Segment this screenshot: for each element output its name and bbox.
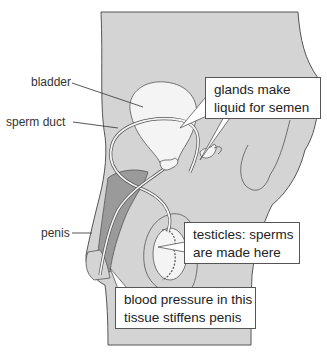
- label-penis: penis: [41, 226, 70, 240]
- diagram-canvas: bladder sperm duct penis glands make liq…: [0, 0, 327, 353]
- callout-tissue: blood pressure in this tissue stiffens p…: [115, 287, 256, 329]
- callout-testicles: testicles: sperms are made here: [184, 222, 300, 264]
- callout-tissue-line1: blood pressure in this: [124, 291, 247, 309]
- callout-glands-line2: liquid for semen: [214, 99, 312, 117]
- callout-testicles-line2: are made here: [193, 244, 291, 262]
- label-bladder: bladder: [31, 75, 71, 89]
- testicle: [153, 228, 187, 280]
- callout-glands-line1: glands make: [214, 81, 312, 99]
- label-sperm-duct: sperm duct: [6, 115, 65, 129]
- callout-testicles-line1: testicles: sperms: [193, 226, 291, 244]
- callout-tissue-line2: tissue stiffens penis: [124, 309, 247, 327]
- callout-glands: glands make liquid for semen: [205, 77, 321, 119]
